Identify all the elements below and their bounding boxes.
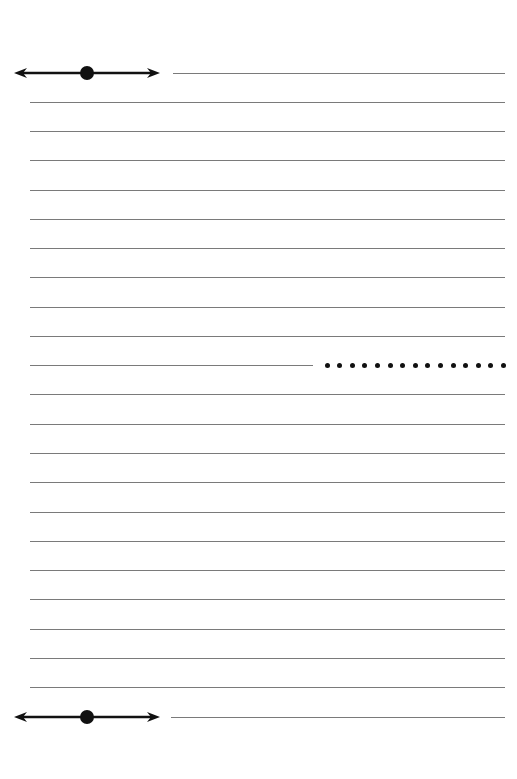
point-dot-icon xyxy=(80,66,94,80)
ruled-line xyxy=(30,599,505,600)
ruled-line xyxy=(30,160,505,161)
dotted-line-dot xyxy=(388,363,393,368)
ruled-line xyxy=(30,131,505,132)
ruled-line xyxy=(30,570,505,571)
dotted-line-dot xyxy=(463,363,468,368)
dotted-line-dot xyxy=(488,363,493,368)
ruled-line xyxy=(30,307,505,308)
ruled-line xyxy=(30,277,505,278)
ruled-line xyxy=(30,629,505,630)
ruled-line xyxy=(30,102,505,103)
dotted-line-dot xyxy=(413,363,418,368)
dotted-line-dot xyxy=(362,363,367,368)
dotted-line-dot xyxy=(400,363,405,368)
ruled-line xyxy=(30,424,505,425)
point-dot-icon xyxy=(80,710,94,724)
dotted-line-dot xyxy=(425,363,430,368)
ruled-line xyxy=(30,190,505,191)
ruled-line xyxy=(30,687,505,688)
dotted-line-dot xyxy=(325,363,330,368)
dotted-line-dot xyxy=(337,363,342,368)
top-number-line-marker-rule xyxy=(173,73,505,74)
ruled-line xyxy=(30,453,505,454)
ruled-line xyxy=(30,658,505,659)
bottom-number-line-marker-rule xyxy=(171,717,505,718)
dotted-line-dot xyxy=(451,363,456,368)
dotted-line-dot xyxy=(501,363,506,368)
ruled-line xyxy=(30,394,505,395)
middle-fold-line xyxy=(30,365,313,366)
dotted-line-dot xyxy=(350,363,355,368)
ruled-line xyxy=(30,541,505,542)
ruled-line xyxy=(30,219,505,220)
dotted-line-dot xyxy=(375,363,380,368)
ruled-line xyxy=(30,336,505,337)
ruled-line xyxy=(30,482,505,483)
dotted-line-dot xyxy=(476,363,481,368)
ruled-line xyxy=(30,248,505,249)
lined-paper-page xyxy=(0,0,517,779)
ruled-line xyxy=(30,512,505,513)
dotted-line-dot xyxy=(438,363,443,368)
